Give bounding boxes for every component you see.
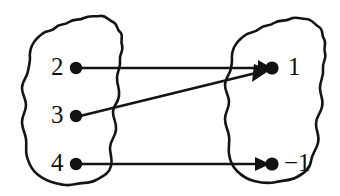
node-label-2: 2: [51, 54, 64, 79]
node-dot-4: [70, 158, 82, 170]
node-dot-2: [70, 62, 82, 74]
node-dot-1: [265, 61, 278, 74]
node-label-minus-1: −1: [284, 150, 311, 175]
node-dot-minus-1: [265, 157, 278, 170]
node-label-1: 1: [288, 54, 301, 79]
node-label-4: 4: [51, 150, 64, 175]
node-dot-3: [70, 110, 82, 122]
node-label-3: 3: [51, 102, 64, 127]
mapping-diagram: 2 3 4 1 −1: [0, 0, 340, 196]
